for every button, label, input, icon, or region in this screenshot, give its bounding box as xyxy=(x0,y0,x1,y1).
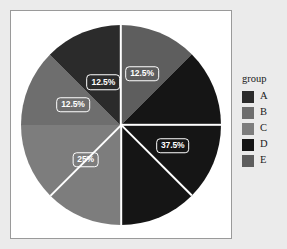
legend-swatch-icon xyxy=(242,123,254,135)
legend-item: D xyxy=(240,137,287,153)
legend-item-label: B xyxy=(260,107,267,118)
legend-title: group xyxy=(242,74,287,85)
pie-slice-label: 12.5% xyxy=(56,97,90,113)
pie-chart: 12.5%37.5%25%12.5%12.5% xyxy=(21,25,221,225)
legend-item-label: D xyxy=(260,139,268,150)
chart-root: 12.5%37.5%25%12.5%12.5% group ABCDE xyxy=(0,0,287,249)
pie-slice-label: 12.5% xyxy=(125,66,159,82)
pie-slice-divider xyxy=(120,125,122,225)
plot-panel: 12.5%37.5%25%12.5%12.5% xyxy=(10,10,232,239)
legend-swatch-icon xyxy=(242,155,254,167)
legend-item-label: A xyxy=(260,91,268,102)
legend-item: A xyxy=(240,89,287,105)
legend-item-label: C xyxy=(260,123,267,134)
legend-swatch-icon xyxy=(242,139,254,151)
pie-slice-divider xyxy=(120,25,122,125)
legend-item: C xyxy=(240,121,287,137)
legend: group ABCDE xyxy=(240,74,287,169)
pie-slice-label: 37.5% xyxy=(156,138,190,154)
legend-item: B xyxy=(240,105,287,121)
pie-slice-label: 25% xyxy=(72,152,99,168)
legend-items: ABCDE xyxy=(240,89,287,169)
pie-slice-label: 12.5% xyxy=(87,74,121,90)
legend-item-label: E xyxy=(260,155,266,166)
legend-item: E xyxy=(240,153,287,169)
legend-swatch-icon xyxy=(242,107,254,119)
legend-swatch-icon xyxy=(242,91,254,103)
pie-slice-divider xyxy=(121,124,221,126)
